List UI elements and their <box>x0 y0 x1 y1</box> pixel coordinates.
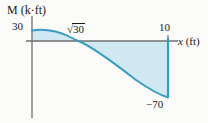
y-axis-label: M (k·ft) <box>7 4 46 16</box>
label-zero-crossing: √30 <box>66 23 85 35</box>
label-right-end-x: 10 <box>159 22 170 33</box>
plot-area <box>0 0 208 123</box>
bending-moment-diagram: M (k·ft) x (ft) 30 √30 10 −70 <box>0 0 208 123</box>
label-peak-value: 30 <box>12 21 23 32</box>
x-axis-units: (ft) <box>186 35 200 47</box>
x-axis-label: x (ft) <box>178 36 200 47</box>
label-min-value: −70 <box>146 99 163 110</box>
radical-value: 30 <box>72 23 85 35</box>
x-axis-symbol: x <box>178 35 183 47</box>
